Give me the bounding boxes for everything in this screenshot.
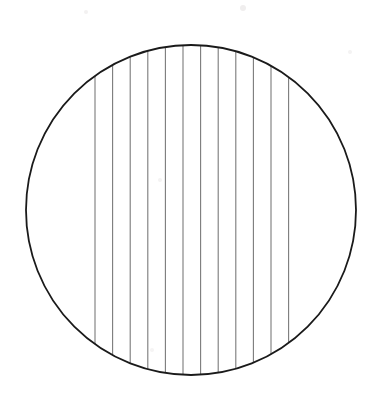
scan-speck-right: [348, 50, 352, 54]
figure-canvas: [0, 0, 382, 403]
scan-speck-top: [240, 5, 246, 11]
hatched-circle-figure: [0, 0, 382, 403]
scan-speck-left-top: [84, 10, 88, 14]
scan-speck-bottom-left: [150, 348, 154, 352]
scan-speck-center: [158, 178, 162, 182]
background-rect: [0, 0, 382, 403]
